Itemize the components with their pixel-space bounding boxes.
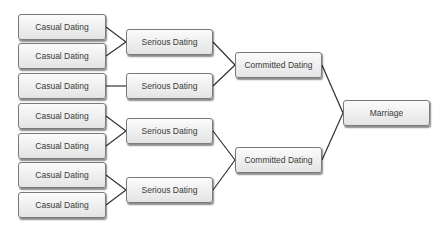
connector-line xyxy=(213,42,235,65)
node-casual-dating: Casual Dating xyxy=(18,43,106,69)
node-committed-dating: Committed Dating xyxy=(235,147,322,173)
connector-line xyxy=(106,27,126,42)
node-label: Committed Dating xyxy=(244,60,312,70)
connector-line xyxy=(106,116,126,131)
node-label: Committed Dating xyxy=(244,155,312,165)
node-serious-dating: Serious Dating xyxy=(126,73,213,99)
connector-line xyxy=(106,42,126,56)
node-serious-dating: Serious Dating xyxy=(126,29,213,55)
connector-line xyxy=(106,175,126,190)
connector-line xyxy=(322,113,343,160)
node-serious-dating: Serious Dating xyxy=(126,177,213,203)
node-label: Marriage xyxy=(370,108,404,118)
dating-bracket-diagram: Casual DatingCasual DatingCasual DatingC… xyxy=(0,0,445,232)
node-marriage: Marriage xyxy=(343,100,430,126)
node-committed-dating: Committed Dating xyxy=(235,52,322,78)
connector-line xyxy=(213,160,235,190)
node-label: Casual Dating xyxy=(35,22,88,32)
node-label: Serious Dating xyxy=(142,126,198,136)
node-label: Casual Dating xyxy=(35,51,88,61)
node-label: Serious Dating xyxy=(142,37,198,47)
node-label: Casual Dating xyxy=(35,111,88,121)
connector-line xyxy=(106,190,126,205)
node-serious-dating: Serious Dating xyxy=(126,118,213,144)
node-label: Serious Dating xyxy=(142,185,198,195)
node-casual-dating: Casual Dating xyxy=(18,192,106,218)
connector-line xyxy=(106,131,126,146)
node-label: Casual Dating xyxy=(35,81,88,91)
connector-line xyxy=(213,65,235,86)
node-casual-dating: Casual Dating xyxy=(18,14,106,40)
node-casual-dating: Casual Dating xyxy=(18,103,106,129)
node-label: Casual Dating xyxy=(35,141,88,151)
node-label: Casual Dating xyxy=(35,170,88,180)
node-casual-dating: Casual Dating xyxy=(18,162,106,188)
connector-line xyxy=(322,65,343,113)
node-label: Casual Dating xyxy=(35,200,88,210)
node-casual-dating: Casual Dating xyxy=(18,73,106,99)
connector-line xyxy=(213,131,235,160)
node-label: Serious Dating xyxy=(142,81,198,91)
node-casual-dating: Casual Dating xyxy=(18,133,106,159)
